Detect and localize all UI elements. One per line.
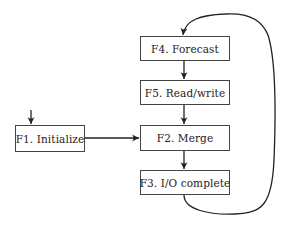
node-f1-label: F1. Initialize	[16, 133, 85, 145]
node-f4-forecast: F4. Forecast	[140, 36, 230, 61]
node-f3-io-complete: F3. I/O complete	[140, 170, 230, 195]
node-f4-label: F4. Forecast	[151, 43, 219, 55]
node-f1-initialize: F1. Initialize	[15, 125, 85, 152]
node-f5-read-write: F5. Read/write	[140, 80, 230, 105]
node-f2-merge: F2. Merge	[140, 125, 230, 151]
node-f3-label: F3. I/O complete	[140, 177, 231, 189]
node-f2-label: F2. Merge	[157, 132, 213, 144]
node-f5-label: F5. Read/write	[145, 87, 225, 99]
